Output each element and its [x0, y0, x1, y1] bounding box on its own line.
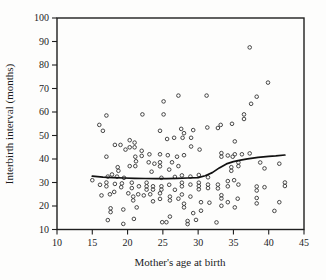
scatter-point: [205, 94, 209, 98]
scatter-point: [231, 155, 235, 159]
scatter-point: [177, 197, 181, 201]
y-tick-label: 10: [39, 224, 49, 235]
scatter-point: [180, 174, 184, 178]
scatter-point: [189, 136, 193, 140]
scatter-point: [134, 160, 138, 164]
scatter-point: [191, 128, 195, 132]
scatter-point: [162, 100, 166, 104]
x-tick-label: 35: [228, 237, 238, 248]
scatter-point: [233, 140, 237, 144]
scatter-point: [168, 215, 172, 219]
scatter-point: [134, 155, 138, 159]
scatter-point: [122, 208, 126, 212]
scatter-point: [131, 199, 135, 203]
y-tick-label: 80: [39, 59, 49, 70]
scatter-point: [198, 148, 202, 152]
scatter-point: [133, 141, 137, 145]
scatter-point: [189, 183, 193, 187]
scatter-point: [101, 129, 105, 133]
scatter-point: [180, 185, 184, 189]
scatter-point: [249, 102, 253, 106]
scatter-point: [230, 122, 234, 126]
scatter-point: [226, 179, 230, 183]
scatter-point: [278, 162, 282, 166]
scatter-point: [226, 185, 230, 189]
scatter-point: [240, 153, 244, 157]
plot-border: [57, 18, 304, 230]
scatter-point: [170, 161, 174, 165]
scatter-point: [105, 114, 109, 118]
scatter-point: [177, 94, 181, 98]
scatter-point: [182, 153, 186, 157]
scatter-point: [105, 185, 109, 189]
scatter-point: [179, 127, 183, 131]
scatter-point: [110, 173, 114, 177]
scatter-point: [165, 220, 169, 224]
x-tick-label: 25: [158, 237, 168, 248]
scatter-point: [194, 218, 198, 222]
scatter-point: [128, 138, 132, 142]
plot-frame: [57, 18, 304, 230]
scatter-point: [112, 190, 116, 194]
scatter-point: [191, 211, 195, 215]
scatter-point: [215, 221, 219, 225]
scatter-point: [258, 161, 262, 165]
scatter-point: [127, 192, 131, 196]
scatter-point: [105, 155, 109, 159]
scatter-point: [140, 149, 144, 153]
scatter-point: [153, 162, 157, 166]
scatter-point: [98, 123, 102, 127]
scatter-point: [113, 143, 117, 147]
y-tick-label: 50: [39, 130, 49, 141]
scatter-point: [128, 146, 132, 150]
scatter-point: [150, 170, 154, 174]
y-tick-label: 100: [34, 12, 49, 23]
scatter-point: [230, 165, 234, 169]
scatter-point: [177, 164, 181, 168]
scatter-point: [175, 155, 179, 159]
x-axis-ticks: 1015202530354045: [52, 230, 309, 248]
scatter-point: [128, 164, 132, 168]
y-tick-label: 60: [39, 106, 49, 117]
scatter-point: [181, 136, 185, 140]
scatter-point: [116, 165, 120, 169]
scatter-point: [158, 161, 162, 165]
scatter-point: [133, 146, 137, 150]
scatter-point: [237, 164, 241, 168]
scatter-point: [216, 126, 220, 130]
scatter-point: [248, 152, 252, 156]
scatter-point: [140, 154, 144, 158]
scatter-point: [226, 200, 230, 204]
scatter-point: [167, 183, 171, 187]
scatter-point: [120, 182, 124, 186]
scatter-point: [148, 153, 152, 157]
scatter-point: [165, 137, 169, 141]
scatter-point: [122, 222, 126, 226]
y-tick-label: 90: [39, 36, 49, 47]
scatter-point: [91, 178, 95, 182]
x-tick-label: 15: [87, 237, 97, 248]
scatter-point: [255, 202, 259, 206]
y-tick-label: 40: [39, 153, 49, 164]
scatter-point: [158, 197, 162, 201]
scatter-point: [232, 178, 236, 182]
scatter-point: [160, 220, 164, 224]
scatter-point: [151, 200, 155, 204]
scatter-plot-canvas: 102030405060708090100 1015202530354045 M…: [0, 0, 326, 280]
scatter-point: [233, 206, 237, 210]
scatter-point: [135, 206, 139, 210]
scatter-points: [91, 46, 287, 226]
scatter-point: [166, 153, 170, 157]
scatter-point: [162, 113, 166, 117]
scatter-point: [173, 188, 177, 192]
scatter-point: [147, 161, 151, 165]
scatter-point: [113, 182, 117, 186]
scatter-point: [255, 196, 259, 200]
scatter-point: [109, 207, 113, 211]
scatter-point: [242, 117, 246, 121]
scatter-point: [98, 183, 102, 187]
scatter-plot-figure: 102030405060708090100 1015202530354045 M…: [0, 0, 326, 280]
scatter-point: [168, 195, 172, 199]
scatter-point: [226, 154, 230, 158]
scatter-point: [230, 169, 234, 173]
